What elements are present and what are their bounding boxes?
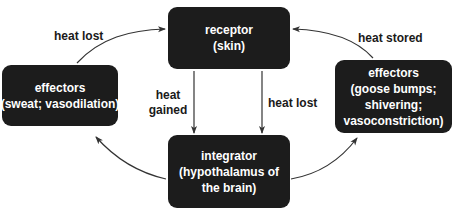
label-heat-gained-line-1: heat [148, 88, 188, 103]
effectors-warming-detail-1: (goose bumps; [351, 81, 437, 97]
effectors-warming-box: effectors (goose bumps; shivering; vasoc… [335, 60, 452, 133]
effectors-cooling-title: effectors [35, 80, 86, 96]
receptor-subtitle: (skin) [213, 38, 245, 54]
integrator-detail-1: (hypothalamus of [179, 164, 279, 180]
integrator-box: integrator (hypothalamus of the brain) [168, 135, 290, 208]
arrow-integrator-to-cooling-effectors [96, 137, 166, 179]
effectors-cooling-detail: (sweat; vasodilation) [1, 96, 120, 112]
effectors-warming-detail-2: shivering; [365, 97, 422, 113]
effectors-warming-title: effectors [368, 65, 419, 81]
label-heat-stored: heat stored [358, 31, 423, 46]
label-heat-gained: heat gained [148, 88, 188, 118]
label-heat-lost-top: heat lost [54, 29, 103, 44]
integrator-title: integrator [201, 148, 257, 164]
receptor-title: receptor [205, 22, 253, 38]
label-heat-lost-center: heat lost [268, 96, 317, 111]
receptor-box: receptor (skin) [168, 7, 290, 69]
label-heat-gained-line-2: gained [148, 103, 188, 118]
integrator-detail-2: the brain) [202, 180, 257, 196]
effectors-warming-detail-3: vasoconstriction) [343, 113, 443, 129]
arrow-integrator-to-warming-effectors [291, 138, 357, 179]
effectors-cooling-box: effectors (sweat; vasodilation) [2, 65, 118, 126]
